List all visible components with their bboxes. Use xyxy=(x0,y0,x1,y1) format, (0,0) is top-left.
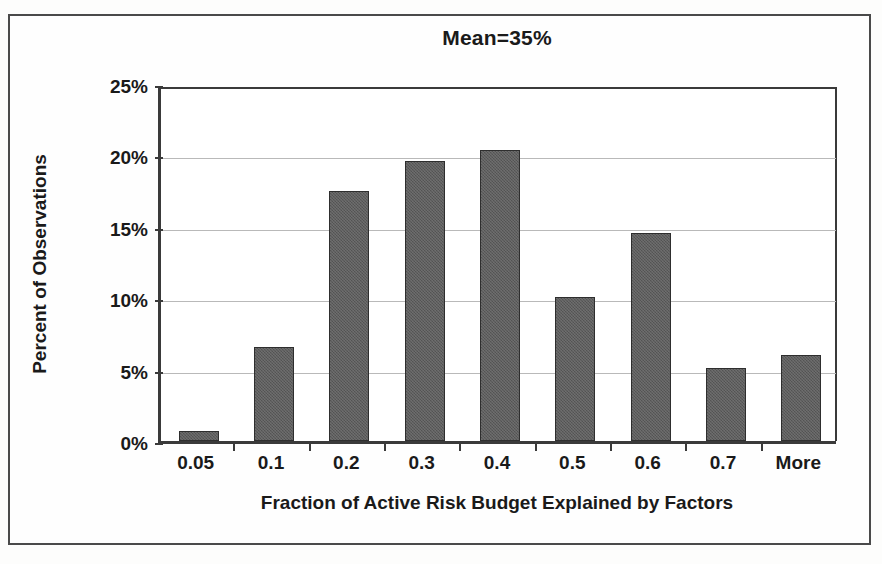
x-tick-label-0.7: 0.7 xyxy=(685,452,760,474)
y-tick-mark-10% xyxy=(155,300,163,302)
plot-right-edge xyxy=(835,87,837,441)
x-tick-label-0.5: 0.5 xyxy=(535,452,610,474)
x-tick-mark-6 xyxy=(610,444,612,451)
x-tick-mark-5 xyxy=(535,444,537,451)
bar-0.05 xyxy=(179,431,219,441)
x-tick-mark-2 xyxy=(309,444,311,451)
x-tick-label-0.4: 0.4 xyxy=(459,452,534,474)
y-axis-tick-labels: 0%5%10%15%20%25% xyxy=(80,87,148,444)
y-tick-mark-20% xyxy=(155,157,163,159)
x-tick-mark-8 xyxy=(761,444,763,451)
bar-0.6 xyxy=(631,233,671,441)
y-tick-label-20%: 20% xyxy=(86,147,148,169)
x-tick-label-0.2: 0.2 xyxy=(309,452,384,474)
x-tick-label-0.3: 0.3 xyxy=(384,452,459,474)
y-tick-mark-15% xyxy=(155,229,163,231)
y-tick-label-5%: 5% xyxy=(86,362,148,384)
y-tick-mark-0% xyxy=(155,443,163,445)
x-tick-label-0.05: 0.05 xyxy=(158,452,233,474)
y-tick-mark-5% xyxy=(155,372,163,374)
x-tick-mark-1 xyxy=(233,444,235,451)
x-tick-mark-3 xyxy=(384,444,386,451)
bar-0.4 xyxy=(480,150,520,441)
plot-area xyxy=(158,87,836,444)
bar-0.2 xyxy=(329,191,369,441)
x-tick-mark-7 xyxy=(685,444,687,451)
x-tick-label-More: More xyxy=(761,452,836,474)
bar-0.1 xyxy=(254,347,294,441)
bar-More xyxy=(781,355,821,441)
y-tick-mark-25% xyxy=(155,86,163,88)
bar-0.3 xyxy=(405,161,445,441)
y-tick-label-15%: 15% xyxy=(86,219,148,241)
bar-0.5 xyxy=(555,297,595,441)
x-tick-label-0.6: 0.6 xyxy=(610,452,685,474)
x-axis-tick-labels: 0.050.10.20.30.40.50.60.7More xyxy=(158,452,836,484)
y-axis-title: Percent of Observations xyxy=(29,134,51,394)
chart-figure: Mean=35% Percent of Observations 0%5%10%… xyxy=(0,0,882,564)
x-tick-label-0.1: 0.1 xyxy=(233,452,308,474)
y-tick-label-0%: 0% xyxy=(86,433,148,455)
chart-title: Mean=35% xyxy=(158,26,836,50)
x-tick-mark-4 xyxy=(459,444,461,451)
x-axis-title: Fraction of Active Risk Budget Explained… xyxy=(158,492,836,514)
gridline-25% xyxy=(161,87,836,89)
y-tick-label-10%: 10% xyxy=(86,290,148,312)
bar-0.7 xyxy=(706,368,746,441)
y-tick-label-25%: 25% xyxy=(86,76,148,98)
